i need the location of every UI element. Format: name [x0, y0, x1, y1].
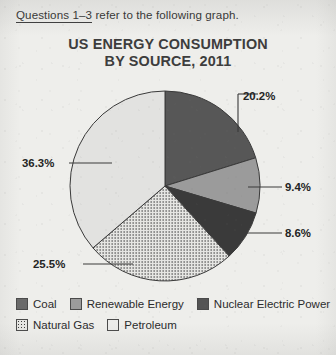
pie-slices-group — [70, 91, 260, 281]
legend-label-nuclear-electric-power: Nuclear Electric Power — [214, 298, 330, 310]
legend-item-natural-gas: Natural Gas — [16, 319, 94, 331]
value-label-nuclear: 8.6% — [285, 227, 311, 239]
legend-swatch-petroleum — [107, 319, 119, 331]
question-range-underlined: Questions 1–3 — [16, 8, 92, 23]
legend-swatch-coal — [16, 298, 28, 310]
legend-item-nuclear-electric-power: Nuclear Electric Power — [197, 298, 330, 310]
legend-label-natural-gas: Natural Gas — [33, 319, 94, 331]
legend-label-petroleum: Petroleum — [124, 319, 176, 331]
legend-item-petroleum: Petroleum — [107, 319, 176, 331]
legend-item-coal: Coal — [16, 298, 57, 310]
chart-title: US ENERGY CONSUMPTION BY SOURCE, 2011 — [0, 36, 336, 70]
chart-title-line-1: US ENERGY CONSUMPTION — [0, 36, 336, 53]
legend-swatch-natural-gas — [16, 319, 28, 331]
value-label-coal: 20.2% — [243, 90, 275, 102]
legend-row-2: Natural Gas Petroleum — [16, 314, 328, 335]
value-label-petroleum: 36.3% — [22, 157, 54, 169]
question-header: Questions 1–3 refer to the following gra… — [16, 8, 326, 21]
legend-swatch-renewable-energy — [70, 298, 82, 310]
legend-swatch-nuclear-electric-power — [197, 298, 209, 310]
legend-row-1: Coal Renewable Energy Nuclear Electric P… — [16, 293, 328, 314]
question-header-rest: refer to the following graph. — [92, 8, 239, 21]
legend-label-coal: Coal — [33, 298, 57, 310]
legend-label-renewable-energy: Renewable Energy — [87, 298, 184, 310]
chart-title-line-2: BY SOURCE, 2011 — [0, 53, 336, 70]
value-label-renewable-energy: 9.4% — [285, 181, 311, 193]
legend-item-renewable-energy: Renewable Energy — [70, 298, 184, 310]
value-label-natural-gas: 25.5% — [33, 258, 65, 270]
chart-legend: Coal Renewable Energy Nuclear Electric P… — [16, 293, 328, 335]
